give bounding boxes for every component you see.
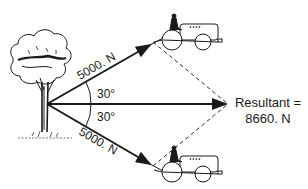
lower-force-label: 5000. N	[77, 124, 120, 157]
upper-angle-label: 30°	[97, 87, 115, 101]
resultant-label: Resultant = 8660. N	[228, 95, 308, 127]
resultant-label-line2: 8660. N	[228, 111, 308, 127]
tractor-upper-icon	[154, 14, 222, 50]
resultant-label-line1: Resultant =	[228, 95, 308, 111]
tree-icon	[11, 30, 72, 138]
force-vectors	[47, 38, 226, 171]
lower-angle-label: 30°	[97, 110, 115, 124]
tractor-lower-icon	[154, 146, 222, 182]
